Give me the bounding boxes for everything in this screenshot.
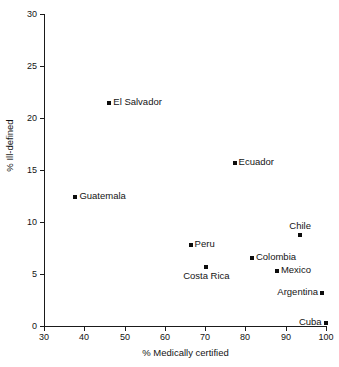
x-tick-mark xyxy=(326,327,327,331)
x-tick-mark xyxy=(44,327,45,331)
x-tick-label: 90 xyxy=(272,332,300,342)
data-point-marker xyxy=(233,161,237,165)
x-tick-label: 70 xyxy=(191,332,219,342)
data-point-label: Ecuador xyxy=(239,157,274,167)
x-tick-label: 50 xyxy=(111,332,139,342)
data-point-marker xyxy=(298,233,302,237)
data-point-label: Costa Rica xyxy=(183,271,229,281)
y-tick-label: 5 xyxy=(11,269,37,279)
data-point-label: Cuba xyxy=(299,317,322,327)
y-tick-label: 15 xyxy=(11,165,37,175)
y-tick-label: 25 xyxy=(11,61,37,71)
data-point-label: Peru xyxy=(195,239,215,249)
data-point-marker xyxy=(204,265,208,269)
x-tick-mark xyxy=(125,327,126,331)
x-axis-line xyxy=(44,326,327,327)
data-point-marker xyxy=(189,243,193,247)
x-tick-label: 80 xyxy=(231,332,259,342)
x-tick-mark xyxy=(165,327,166,331)
x-tick-mark xyxy=(84,327,85,331)
x-tick-label: 60 xyxy=(151,332,179,342)
data-point-label: Colombia xyxy=(256,252,296,262)
data-point-label: Guatemala xyxy=(79,191,125,201)
y-axis-title: % Ill-defined xyxy=(4,101,15,191)
y-tick-label: 20 xyxy=(11,113,37,123)
x-tick-label: 100 xyxy=(312,332,339,342)
y-tick-label: 30 xyxy=(11,9,37,19)
x-axis-title: % Medically certified xyxy=(44,347,327,358)
x-tick-mark xyxy=(286,327,287,331)
scatter-plot-figure: 051015202530 30405060708090100 % Medical… xyxy=(0,0,339,367)
data-point-label: Chile xyxy=(289,221,311,231)
data-point-marker xyxy=(275,269,279,273)
x-tick-mark xyxy=(245,327,246,331)
data-point-marker xyxy=(73,195,77,199)
data-point-marker xyxy=(320,291,324,295)
y-tick-label: 0 xyxy=(11,321,37,331)
data-point-label: Argentina xyxy=(277,287,318,297)
x-tick-mark xyxy=(205,327,206,331)
data-point-label: Mexico xyxy=(281,265,311,275)
y-tick-label: 10 xyxy=(11,217,37,227)
data-point-marker xyxy=(250,256,254,260)
x-tick-label: 30 xyxy=(30,332,58,342)
data-point-marker xyxy=(107,101,111,105)
data-point-label: El Salvador xyxy=(113,97,162,107)
data-point-marker xyxy=(324,321,328,325)
x-tick-label: 40 xyxy=(70,332,98,342)
